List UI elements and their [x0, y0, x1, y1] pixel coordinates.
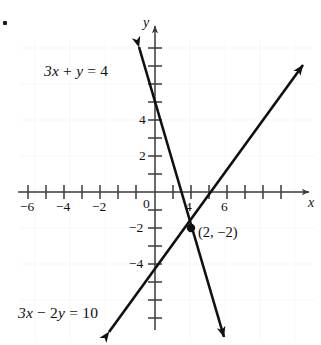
intersection-point-label: (2, −2) — [198, 225, 238, 240]
y-tick-label-2: 2 — [139, 149, 146, 163]
y-tick-label--2: −2 — [129, 221, 143, 235]
y-tick-label-4: 4 — [139, 113, 146, 127]
y-axis-label: y — [143, 16, 149, 30]
x-tick-label--6: −6 — [20, 200, 34, 214]
x-tick-label--4: −4 — [56, 200, 70, 214]
x-axis — [18, 185, 309, 199]
intersection-point-dot — [187, 224, 195, 232]
line-3x-minus-2y-equals-10 — [109, 65, 303, 332]
y-tick-label--4: −4 — [129, 257, 143, 271]
origin-label: 0 — [143, 197, 150, 211]
equation-label-line-1: 3x + y = 4 — [44, 63, 108, 79]
x-tick-label-6: 6 — [221, 200, 228, 214]
coordinate-graph — [0, 0, 321, 345]
equation-label-line-2: 3x − 2y = 10 — [18, 305, 98, 321]
x-axis-label: x — [308, 196, 314, 210]
x-tick-label--2: −2 — [92, 200, 106, 214]
figure-container: 3x + y = 4 3x − 2y = 10 x y −6 −4 −2 4 6… — [0, 0, 321, 345]
y-axis — [148, 26, 162, 330]
x-tick-label-4: 4 — [185, 200, 192, 214]
